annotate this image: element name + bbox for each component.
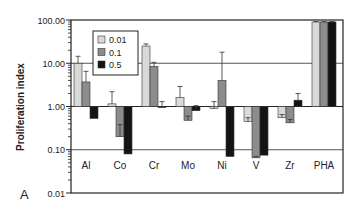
bar-group-co <box>108 92 132 154</box>
bar <box>150 66 158 106</box>
bar <box>82 82 90 107</box>
x-category-label: Zr <box>285 160 295 171</box>
proliferation-bar-chart: 100.0010.001.000.100.01 AlCoCrMoNiVZrPHA… <box>0 0 359 207</box>
x-category-label: Al <box>82 160 91 171</box>
y-tick-label: 0.01 <box>47 189 65 199</box>
bar <box>252 107 260 158</box>
bar <box>90 107 98 119</box>
bar <box>124 107 132 154</box>
bar <box>142 46 150 106</box>
bar-group-pha <box>312 22 336 107</box>
legend-label: 0.01 <box>109 35 127 45</box>
bar <box>108 104 116 107</box>
bar <box>218 80 226 106</box>
bar-group-zr <box>278 93 302 122</box>
x-category-label: Ni <box>217 160 226 171</box>
bar <box>176 98 184 107</box>
legend-swatch <box>98 49 105 56</box>
y-tick-label: 0.10 <box>47 145 65 155</box>
bar <box>312 22 320 107</box>
bar <box>226 107 234 157</box>
x-category-label: V <box>253 160 260 171</box>
bar <box>320 22 328 107</box>
bar <box>328 22 336 107</box>
y-tick-label: 100.00 <box>37 16 65 26</box>
legend-label: 0.1 <box>109 48 122 58</box>
bar <box>74 63 82 106</box>
legend-swatch <box>98 36 105 43</box>
bar <box>294 100 302 106</box>
bar-group-cr <box>142 44 166 108</box>
bar-group-ni <box>210 52 234 156</box>
y-tick-labels: 100.0010.001.000.100.01 <box>37 16 65 199</box>
x-category-label: PHA <box>314 160 335 171</box>
y-tick-label: 10.00 <box>42 59 65 69</box>
bar <box>260 107 268 156</box>
bar-group-mo <box>176 87 200 121</box>
x-category-label: Co <box>114 160 127 171</box>
panel-label: A <box>20 187 29 202</box>
x-category-label: Mo <box>181 160 195 171</box>
legend-swatch <box>98 61 105 68</box>
x-category-label: Cr <box>149 160 160 171</box>
x-category-labels: AlCoCrMoNiVZrPHA <box>82 160 335 171</box>
y-tick-label: 1.00 <box>47 102 65 112</box>
legend-label: 0.5 <box>109 60 122 70</box>
legend: 0.010.10.5 <box>93 31 138 75</box>
y-axis-label: Proliferation index <box>15 63 26 151</box>
